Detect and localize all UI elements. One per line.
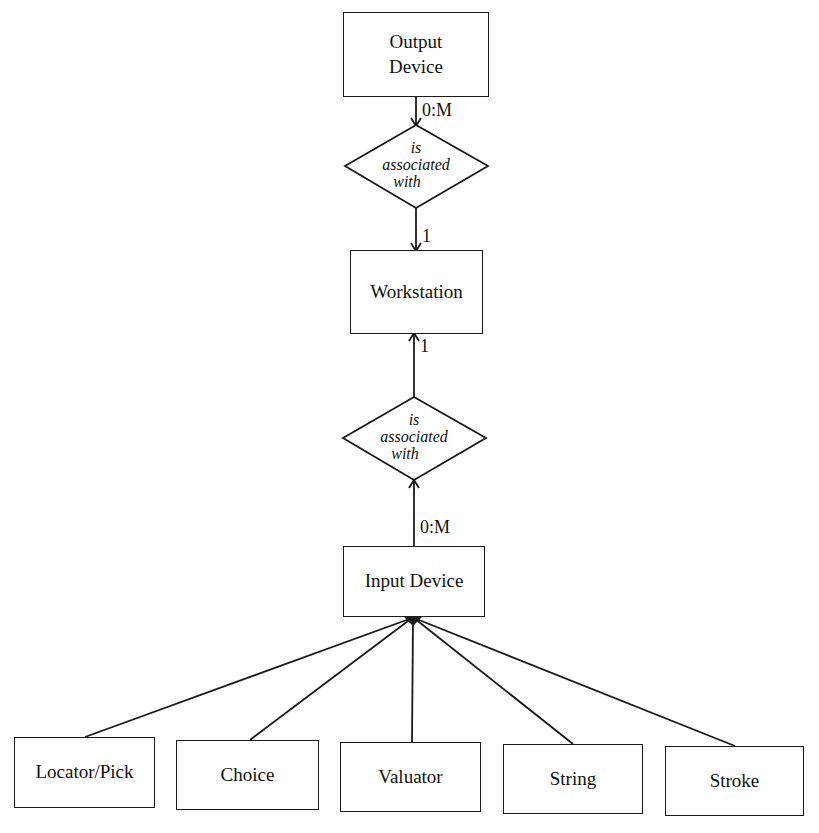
subtype-valuator: Valuator	[340, 742, 481, 812]
subtype-choice: Choice	[176, 740, 319, 810]
cardinality-workstation-bottom: 1	[420, 336, 429, 357]
relationship-label-1: is associated with	[366, 140, 466, 190]
entity-output-device: Output Device	[343, 12, 489, 97]
entity-label: Input Device	[365, 569, 464, 594]
entity-workstation: Workstation	[350, 250, 483, 334]
entity-input-device: Input Device	[343, 546, 485, 617]
entity-label: Device	[389, 55, 443, 80]
relationship-label-2: is associated with	[364, 412, 464, 462]
subtype-string: String	[503, 744, 643, 814]
entity-label: Output	[390, 30, 443, 55]
entity-label: Workstation	[370, 280, 462, 305]
cardinality-input-device: 0:M	[420, 517, 450, 538]
cardinality-workstation-top: 1	[422, 226, 431, 247]
subtype-locator-pick: Locator/Pick	[14, 737, 155, 808]
cardinality-output-device: 0:M	[422, 100, 452, 121]
subtype-stroke: Stroke	[665, 746, 804, 816]
